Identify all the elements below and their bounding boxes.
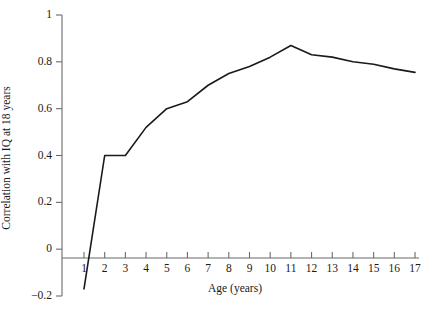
x-axis-tick-label: 3: [123, 263, 129, 275]
x-axis-tick-label: 1: [81, 263, 87, 275]
y-axis-title: Correlation with IQ at 18 years: [0, 86, 12, 229]
x-axis-tick-label: 7: [205, 263, 211, 275]
x-axis-tick-label: 6: [185, 263, 191, 275]
x-axis-tick-label: 5: [164, 263, 170, 275]
x-axis-tick-label: 12: [306, 263, 318, 275]
x-axis-ticks: [84, 252, 415, 258]
x-axis-tick-label: 4: [143, 263, 149, 275]
x-axis-tick-label: 8: [226, 263, 232, 275]
x-axis-tick-label: 16: [389, 263, 401, 275]
chart-figure: −0.200.20.40.60.81 123456789101112131415…: [0, 0, 432, 317]
x-axis-tick-label: 13: [327, 263, 339, 275]
x-axis-tick-label: 2: [102, 263, 108, 275]
y-axis-tick-label: 0.6: [38, 103, 52, 115]
x-axis-tick-label: 14: [347, 263, 359, 275]
x-axis-tick-label: 15: [368, 263, 380, 275]
y-axis-tick-label: 0: [46, 243, 52, 255]
x-axis-title: Age (years): [208, 282, 262, 294]
x-axis-tick-label: 17: [409, 263, 421, 275]
x-axis-tick-label: 10: [264, 263, 276, 275]
y-axis-tick-label: 0.2: [38, 197, 52, 209]
y-axis-tick-label: −0.2: [31, 290, 52, 302]
y-axis-tick-label: 0.4: [38, 150, 52, 162]
y-axis-tick-label: 1: [46, 9, 52, 21]
y-axis-tick-label: 0.8: [38, 56, 52, 68]
x-axis-tick-label: 9: [247, 263, 253, 275]
y-axis-ticks: [56, 15, 62, 296]
x-axis-tick-label: 11: [285, 263, 296, 275]
